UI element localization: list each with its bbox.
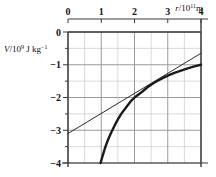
figure-root: 01234 0−1−2−3−4 r/1011m V/109 J kg−1 — [0, 0, 216, 177]
y-tick-label: −2 — [50, 92, 61, 103]
x-axis-label: r/1011m — [175, 3, 203, 13]
chart-background — [0, 0, 216, 177]
y-axis-label: V/109 J kg−1 — [4, 44, 47, 54]
x-tick-label: 3 — [165, 6, 170, 17]
x-tick-label: 2 — [132, 6, 137, 17]
y-tick-label: −4 — [50, 158, 61, 169]
y-tick-label: −1 — [50, 59, 61, 70]
potential-vs-distance-chart: 01234 0−1−2−3−4 r/1011m V/109 J kg−1 — [0, 0, 216, 177]
x-tick-label: 1 — [99, 6, 104, 17]
y-tick-label: −3 — [50, 125, 61, 136]
x-tick-label: 0 — [66, 6, 71, 17]
y-tick-label: 0 — [56, 27, 61, 38]
